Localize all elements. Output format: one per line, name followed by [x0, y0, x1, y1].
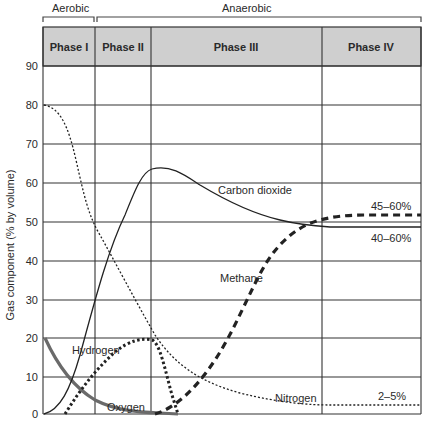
- svg-text:70: 70: [26, 138, 38, 150]
- oxygen-label: Oxygen: [107, 401, 145, 413]
- aerobic-label: Aerobic: [52, 2, 90, 14]
- methane-range-annotation: 45–60%: [371, 200, 412, 212]
- y-axis-label: Gas component (% by volume): [4, 169, 16, 320]
- svg-text:0: 0: [32, 408, 38, 420]
- nitrogen-curve: [44, 105, 421, 405]
- svg-text:60: 60: [26, 177, 38, 189]
- svg-text:10: 10: [26, 371, 38, 383]
- svg-text:80: 80: [26, 99, 38, 111]
- stage-brackets: [43, 17, 421, 22]
- landfill-gas-chart: Aerobic Anaerobic Phase I Phase II Phase…: [0, 0, 430, 427]
- phase-3-label: Phase III: [214, 41, 259, 53]
- co2-range-annotation: 40–60%: [371, 232, 412, 244]
- methane-curve: [155, 215, 421, 414]
- aerobic-bracket: [43, 17, 94, 22]
- svg-text:40: 40: [26, 255, 38, 267]
- svg-text:90: 90: [26, 60, 38, 72]
- nitrogen-label: Nitrogen: [275, 392, 317, 404]
- anaerobic-label: Anaerobic: [222, 2, 272, 14]
- svg-text:30: 30: [26, 294, 38, 306]
- anaerobic-bracket: [97, 17, 421, 22]
- nitrogen-range-annotation: 2–5%: [378, 390, 406, 402]
- phase-4-label: Phase IV: [348, 41, 395, 53]
- phase-1-label: Phase I: [50, 41, 89, 53]
- y-tick-labels: 0 10 20 30 40 50 60 70 80 90: [26, 60, 38, 420]
- svg-text:20: 20: [26, 332, 38, 344]
- svg-text:50: 50: [26, 216, 38, 228]
- hydrogen-label: Hydrogen: [72, 344, 120, 356]
- carbon-dioxide-label: Carbon dioxide: [218, 184, 292, 196]
- phase-2-label: Phase II: [102, 41, 144, 53]
- methane-label: Methane: [220, 272, 263, 284]
